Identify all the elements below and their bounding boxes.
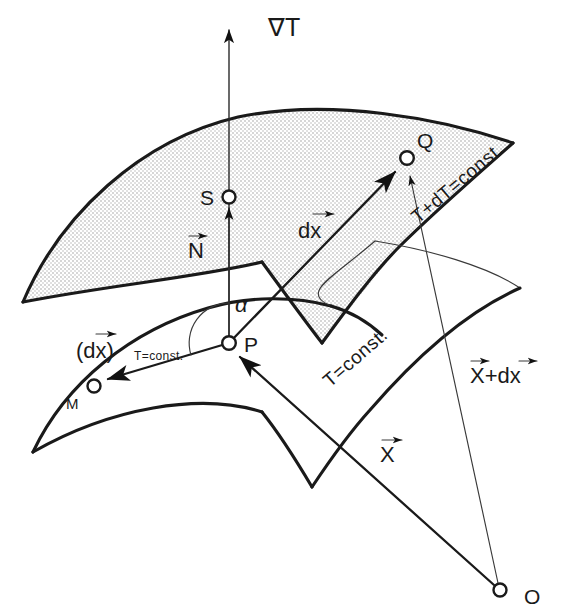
gradient-surface-diagram: ∇T S N α P Q M O dx (dx) T=const. T=cons… [0, 0, 586, 614]
dx-label: dx [298, 218, 321, 243]
point-label-P: P [244, 333, 258, 356]
position-vector-x-plus-dx-label: X+dx [470, 363, 521, 388]
point-marker-M[interactable] [88, 380, 101, 393]
point-label-M: M [66, 395, 79, 412]
gradient-label: ∇T [267, 13, 300, 41]
point-marker-O[interactable] [494, 584, 507, 597]
normal-vector-label: N [188, 238, 204, 263]
tangential-dx-subscript: T=const. [134, 349, 184, 363]
figure-root: ∇T S N α P Q M O dx (dx) T=const. T=cons… [0, 0, 586, 614]
point-marker-Q[interactable] [400, 151, 414, 165]
point-marker-P[interactable] [222, 336, 236, 350]
canvas-background [0, 0, 586, 614]
point-label-S: S [200, 186, 214, 209]
point-label-Q: Q [417, 129, 433, 152]
position-vector-x-label: X [380, 442, 395, 467]
angle-label-alpha: α [235, 292, 249, 317]
point-label-O: O [524, 585, 540, 608]
tangential-dx-label: (dx) [76, 338, 114, 363]
point-marker-S[interactable] [223, 191, 236, 204]
